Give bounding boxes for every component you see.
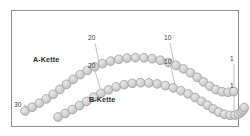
- leader-line: [95, 71, 100, 88]
- bead: [140, 53, 149, 62]
- residue-number-b-10: 10: [164, 58, 171, 65]
- leader-line: [95, 43, 99, 63]
- bead: [120, 80, 129, 89]
- chain-a-label: A-Kette: [33, 55, 59, 64]
- bead: [148, 54, 157, 63]
- bead: [240, 103, 249, 112]
- residue-number-b-1: 1: [230, 82, 234, 89]
- bead: [136, 78, 145, 87]
- bead: [98, 59, 107, 68]
- bead: [161, 81, 170, 90]
- bead: [153, 80, 162, 89]
- bead: [106, 57, 115, 66]
- chain-b-beads: [54, 78, 249, 121]
- bead: [112, 83, 121, 92]
- bead: [145, 79, 154, 88]
- bead: [123, 54, 132, 63]
- residue-number-a-1: 1: [230, 55, 234, 62]
- bead: [114, 55, 123, 64]
- chain-b-label: B-Kette: [89, 95, 115, 104]
- bead: [131, 53, 140, 62]
- residue-number-a-20: 20: [88, 34, 95, 41]
- chain-plot: [0, 0, 250, 136]
- residue-number-a-30: 30: [14, 101, 21, 108]
- residue-number-b-20: 20: [88, 62, 95, 69]
- insulin-chain-figure: A-Kette B-Kette 30 20 10 1 20 10 1: [0, 0, 250, 136]
- residue-number-a-10: 10: [164, 34, 171, 41]
- bead: [128, 79, 137, 88]
